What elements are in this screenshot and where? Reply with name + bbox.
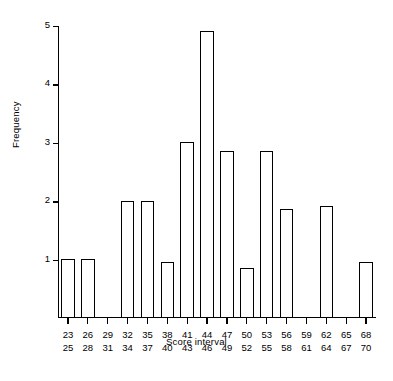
histogram-bar bbox=[180, 142, 194, 317]
x-tick-mark bbox=[246, 318, 247, 324]
x-tick-mark bbox=[365, 318, 366, 324]
y-axis-line bbox=[58, 26, 59, 318]
histogram-bar bbox=[161, 262, 175, 317]
histogram-bar bbox=[61, 259, 75, 317]
x-tick-mark bbox=[127, 318, 128, 324]
y-tick-label: 1 bbox=[45, 253, 50, 265]
histogram-bar bbox=[141, 201, 155, 318]
x-tick-mark bbox=[187, 318, 188, 324]
x-tick-mark bbox=[326, 318, 327, 324]
histogram-bar bbox=[320, 206, 334, 317]
x-tick-mark bbox=[167, 318, 168, 324]
x-tick-mark bbox=[266, 318, 267, 324]
y-tick-label: 5 bbox=[45, 19, 50, 31]
histogram-bar bbox=[81, 259, 95, 317]
y-tick-mark bbox=[53, 201, 58, 202]
histogram-bar bbox=[359, 262, 373, 317]
histogram-bar bbox=[260, 151, 274, 317]
histogram-bar bbox=[220, 151, 234, 317]
x-tick-mark bbox=[87, 318, 88, 324]
plot-area: 12345 2325262829313234353738404143444647… bbox=[58, 26, 376, 318]
histogram-bar bbox=[240, 268, 254, 318]
histogram-bar bbox=[121, 201, 135, 318]
x-tick-mark bbox=[206, 318, 207, 324]
x-tick-mark bbox=[226, 318, 227, 324]
x-tick-mark bbox=[107, 318, 108, 324]
x-tick-mark bbox=[147, 318, 148, 324]
y-tick-mark bbox=[53, 260, 58, 261]
y-tick-label: 2 bbox=[45, 194, 50, 206]
y-tick-mark bbox=[53, 26, 58, 27]
histogram-bar bbox=[280, 209, 294, 317]
x-tick-mark bbox=[67, 318, 68, 324]
x-tick-mark bbox=[346, 318, 347, 324]
y-tick-label: 3 bbox=[45, 136, 50, 148]
histogram-bar bbox=[200, 31, 214, 317]
y-tick-label: 4 bbox=[45, 77, 50, 89]
y-axis-title: Frequency bbox=[10, 28, 24, 148]
x-tick-mark bbox=[306, 318, 307, 324]
histogram-figure: Frequency 12345 232526282931323435373840… bbox=[0, 0, 393, 381]
y-tick-mark bbox=[53, 84, 58, 85]
x-tick-mark bbox=[286, 318, 287, 324]
x-axis-title: Score interval bbox=[0, 336, 393, 347]
y-tick-mark bbox=[53, 143, 58, 144]
